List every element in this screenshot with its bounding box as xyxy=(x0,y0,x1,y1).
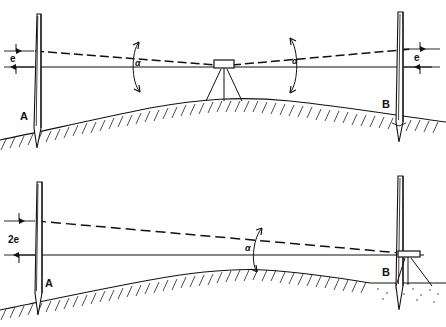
angle-label-upper-left: α xyxy=(135,58,141,68)
point-label-a-lower: A xyxy=(45,277,53,289)
point-label-a-upper: A xyxy=(20,110,28,122)
point-label-b-upper: B xyxy=(382,98,390,110)
angle-label-upper-right: α xyxy=(292,56,298,66)
point-label-b-lower: B xyxy=(382,266,390,278)
instrument-body-upper xyxy=(214,60,234,68)
dimension-label-2e: 2e xyxy=(8,234,20,245)
diagram-canvas: α α e e A B xyxy=(0,0,446,327)
dimension-label-e-left: e xyxy=(10,53,16,64)
angle-label-lower: α xyxy=(245,243,251,253)
figure-background xyxy=(0,0,446,327)
two-peg-test-figure: α α e e A B xyxy=(0,0,446,327)
dimension-label-e-right: e xyxy=(414,52,420,63)
instrument-body-lower xyxy=(398,251,420,257)
